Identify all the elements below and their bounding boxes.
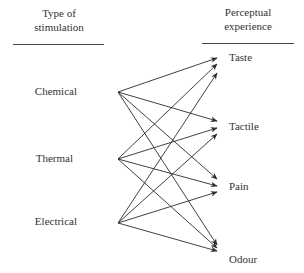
arrow-thermal-taste [118, 64, 217, 159]
arrow-connections [0, 0, 304, 273]
arrow-electrical-taste [118, 73, 217, 223]
arrow-chemical-pain [118, 92, 217, 179]
arrow-chemical-taste [118, 58, 217, 92]
arrow-electrical-odour [118, 223, 217, 251]
arrow-thermal-tactile [118, 128, 217, 159]
arrow-chemical-tactile [118, 92, 217, 121]
arrow-electrical-pain [118, 192, 217, 223]
stimulation-perception-diagram: Type of stimulation Perceptual experienc… [0, 0, 304, 273]
arrow-chemical-odour [118, 92, 217, 245]
